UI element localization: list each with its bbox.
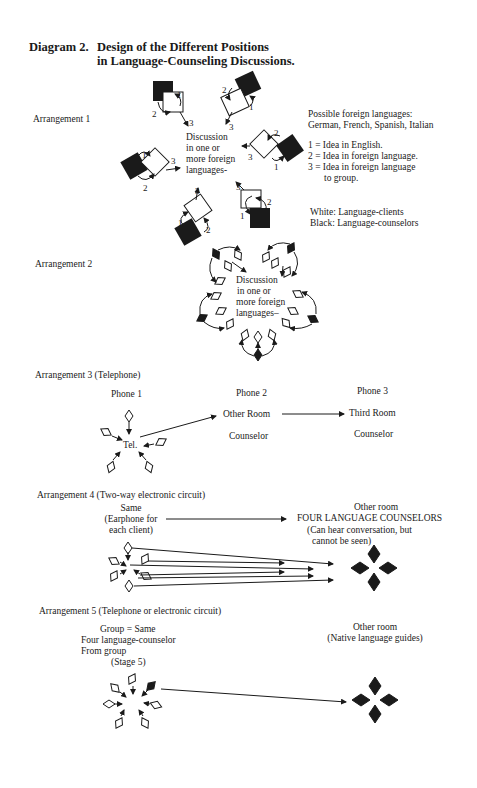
a5-left-line3: From group — [81, 646, 126, 657]
a1-center-line2: in one or — [186, 143, 220, 154]
arrangement-5-label: Arrangement 5 (Telephone or electronic c… — [39, 606, 221, 617]
a4-left-line2: (Earphone for — [96, 514, 166, 525]
a2-center-line2: in one or — [237, 286, 271, 297]
svg-text:3: 3 — [236, 182, 241, 192]
a5-left-line2: Four language-counselor — [81, 635, 176, 646]
arrangement-1-label: Arrangement 1 — [33, 114, 90, 125]
svg-text:1: 1 — [240, 211, 245, 221]
svg-text:3: 3 — [171, 156, 176, 166]
a5-right-line2: (Native language guides) — [300, 633, 450, 644]
a1-pair-top-left — [153, 81, 188, 126]
a5-right-line1: Other room — [300, 622, 450, 633]
a1-center-line1: Discussion — [186, 132, 228, 143]
legend-black: Black: Language-counselors — [310, 218, 418, 229]
svg-text:3: 3 — [248, 152, 253, 162]
a4-right-main: FOUR LANGUAGE COUNSELORS — [297, 513, 442, 524]
key-3: 3 = Idea in foreign language — [308, 162, 415, 173]
a2-center-line3: more foreign — [236, 297, 285, 308]
arrangement-2-label: Arrangement 2 — [35, 259, 92, 270]
a5-group — [103, 672, 398, 730]
languages-list: German, French, Spanish, Italian — [308, 120, 434, 131]
a5-left-line1: Group = Same — [100, 624, 156, 635]
a4-right-note1: (Can hear conversation, but — [307, 525, 412, 536]
a4-right-title: Other room — [296, 502, 456, 513]
a2-center-line4: languages– — [236, 308, 279, 319]
key-2: 2 = Idea in foreign language. — [308, 151, 418, 162]
a2-center-line1: Discussion — [236, 275, 278, 286]
svg-text:2: 2 — [206, 225, 211, 235]
svg-text:2: 2 — [274, 128, 279, 138]
a1-pair-bottom-left — [174, 188, 212, 246]
a4-right-note2: cannot be seen) — [312, 536, 371, 547]
svg-text:1: 1 — [142, 150, 147, 160]
counselor-2-label: Counselor — [229, 431, 268, 442]
a4-left-line1: Same — [96, 503, 166, 514]
key-3-cont: to group. — [324, 173, 358, 184]
svg-text:3: 3 — [195, 186, 200, 196]
a1-center-line3: more foreign — [186, 154, 235, 165]
svg-text:1: 1 — [249, 102, 254, 112]
languages-heading: Possible foreign languages: — [308, 109, 412, 120]
a4-left-line3: each client) — [96, 525, 166, 536]
phone-2-label: Phone 2 — [236, 388, 267, 399]
a1-center-line4: languages- — [186, 165, 227, 176]
a1-pair-bottom-right — [236, 182, 270, 228]
svg-text:2: 2 — [222, 85, 227, 95]
svg-text:1: 1 — [177, 90, 182, 100]
third-room-label: Third Room — [349, 408, 396, 419]
other-room-label: Other Room — [223, 409, 270, 420]
counselor-3-label: Counselor — [354, 429, 393, 440]
arrangement-3-label: Arrangement 3 (Telephone) — [35, 370, 140, 381]
key-1: 1 = Idea in English. — [308, 140, 383, 151]
svg-text:3: 3 — [229, 122, 234, 132]
legend-white: White: Language-clients — [310, 207, 404, 218]
tel-label: Tel. — [123, 440, 137, 451]
svg-text:2: 2 — [152, 109, 157, 119]
svg-text:3: 3 — [189, 118, 194, 128]
phone-3-label: Phone 3 — [357, 386, 388, 397]
svg-text:2: 2 — [143, 183, 148, 193]
svg-text:1: 1 — [274, 162, 279, 172]
a5-left-line4: (Stage 5) — [111, 657, 146, 668]
phone-1-label: Phone 1 — [111, 389, 142, 400]
arrangement-4-label: Arrangement 4 (Two-way electronic circui… — [37, 490, 205, 501]
a1-pair-top-right — [221, 71, 261, 124]
svg-text:2: 2 — [267, 197, 272, 207]
svg-text:1: 1 — [178, 218, 183, 228]
